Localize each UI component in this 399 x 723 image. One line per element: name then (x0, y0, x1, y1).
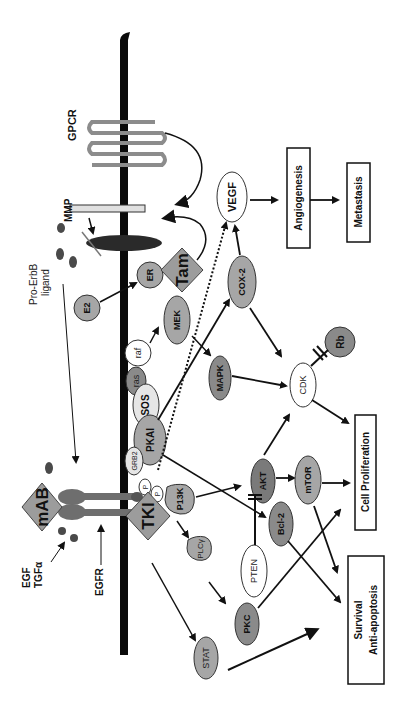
mtor-to-survival-arrow (314, 506, 337, 572)
egf-to-egfr-arrow (51, 543, 64, 562)
tki-to-stat-arrow (152, 563, 195, 640)
survival-label-line1: Survival (353, 600, 364, 639)
metastasis-label: Metastasis (353, 176, 364, 228)
tam-label: Tam (173, 253, 192, 287)
plcg-to-pkc-arrow (209, 582, 225, 603)
mtor-label: mTOR (303, 466, 313, 493)
pkai-label: PKAI (145, 428, 156, 452)
ligand-dot (69, 256, 77, 268)
cox2-label: COX-2 (237, 268, 247, 296)
ras-label: ras (131, 374, 141, 387)
egf-ligand-dot (70, 534, 78, 542)
rb-inhibits-cdk (311, 350, 328, 366)
p13k-to-plcg-arrow (177, 521, 188, 537)
gpcr-label: GPCR (66, 109, 78, 141)
vegf-label: VEGF (226, 182, 238, 212)
ligand-dot (57, 223, 65, 233)
mab-label: mAB (33, 487, 52, 527)
gpcr-to-mmp-arrow (165, 133, 202, 204)
akt-label: AKT (258, 471, 268, 490)
cdk-label: CDK (298, 375, 308, 394)
sos-label: SOS (140, 394, 151, 415)
ligand-dot (45, 462, 53, 474)
survival-label-line2: Anti-apoptosis (368, 585, 379, 655)
p2-label: P (154, 491, 161, 496)
mek-label: MEK (172, 310, 182, 331)
pro-erbb-label-line1: Pro-ErbB (28, 264, 39, 305)
mapk-to-cdk-arrow (232, 376, 286, 386)
pten-label: PTEN (249, 559, 259, 583)
mapk-label: MAPK (215, 364, 225, 391)
p13k-label: P13K (175, 487, 185, 510)
bcl2-to-survival-arrow (288, 541, 340, 602)
raf-to-mek-arrow (150, 328, 158, 343)
mmp-cleavage-arrow (89, 218, 93, 233)
e2-label: E2 (82, 302, 92, 313)
p1-label: P (142, 484, 149, 489)
cox2-to-cdk-arrow (250, 308, 281, 356)
plcg-label: PLCγ (196, 539, 205, 559)
tki-label: TKI (139, 502, 158, 529)
akt-to-cdk-arrow (264, 415, 289, 455)
bcl2-label: Bcl-2 (276, 513, 286, 535)
pro-erbb-label-line2: ligand (40, 269, 51, 296)
pathway-diagram: GPCR MMP Pro-ErbB ligand E2 ER Tam MEK r… (0, 0, 399, 723)
cell-proliferation-label: Cell Proliferation (360, 432, 371, 512)
mmp-bar (70, 205, 145, 212)
pkc-label: PKC (242, 614, 252, 634)
rb-label: Rb (335, 335, 346, 348)
ligand-dot (56, 248, 64, 260)
tgfa-label: TGFα (33, 561, 44, 588)
pro-erbb-ligand-cleaved (86, 235, 162, 251)
grb2-label: GRB2 (131, 451, 138, 470)
egf-label: EGF (21, 567, 32, 588)
egfr-label: EGFR (94, 567, 105, 596)
stat-label: STAT (201, 647, 211, 669)
egf-ligand-dot (58, 527, 66, 535)
raf-label: raf (133, 347, 143, 358)
cox2-to-vegf-arrow (235, 226, 240, 255)
e2-to-er-arrow (100, 283, 136, 302)
mmp-label: MMP (63, 198, 74, 222)
angiogenesis-label: Angiogenesis (293, 165, 304, 231)
cdk-to-proliferation-arrow (312, 400, 348, 423)
er-label: ER (145, 268, 155, 281)
